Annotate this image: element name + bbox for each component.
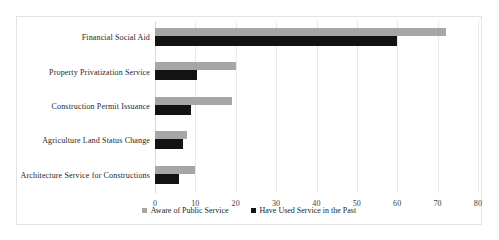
bar-aware-of-public-service: [155, 97, 232, 105]
bar-have-used-service: [155, 36, 397, 46]
bar-have-used-service: [155, 105, 191, 115]
legend-label: Aware of Public Service: [151, 206, 229, 215]
plot-area: 01020304050607080: [155, 21, 478, 193]
chart-frame: 01020304050607080 Aware of Public Servic…: [16, 16, 482, 225]
category-label: Agriculture Land Status Change: [42, 136, 150, 145]
bar-have-used-service: [155, 70, 197, 80]
category-label: Financial Social Aid: [82, 33, 150, 42]
bar-aware-of-public-service: [155, 28, 446, 36]
bar-have-used-service: [155, 174, 179, 184]
legend-item[interactable]: Aware of Public Service: [142, 206, 229, 215]
legend-label: Have Used Service in the Past: [260, 206, 357, 215]
bar-group: [155, 124, 478, 158]
bar-group: [155, 21, 478, 55]
category-label: Construction Permit Issuance: [52, 102, 150, 111]
bar-group: [155, 159, 478, 193]
bar-group: [155, 55, 478, 89]
legend-swatch-gray-icon: [142, 208, 147, 213]
category-label: Property Privatization Service: [49, 68, 150, 77]
category-label: Architecture Service for Constructions: [21, 171, 150, 180]
legend-swatch-black-icon: [251, 208, 256, 213]
bar-aware-of-public-service: [155, 166, 195, 174]
bar-aware-of-public-service: [155, 131, 187, 139]
gridline-80: [478, 21, 479, 193]
bar-group: [155, 90, 478, 124]
bar-have-used-service: [155, 139, 183, 149]
legend-item[interactable]: Have Used Service in the Past: [251, 206, 357, 215]
bar-aware-of-public-service: [155, 62, 236, 70]
chart-legend: Aware of Public ServiceHave Used Service…: [17, 206, 481, 215]
